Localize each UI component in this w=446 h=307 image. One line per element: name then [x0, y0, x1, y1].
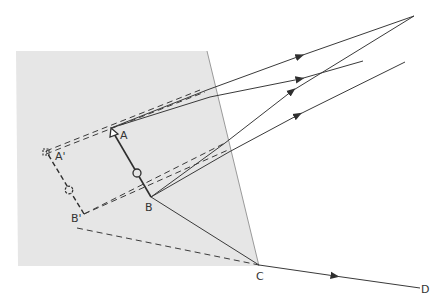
reflected-ray-3 — [225, 91, 292, 143]
ray-diagram: A B A' B' C D — [0, 0, 446, 307]
label-c: C — [256, 270, 264, 283]
image-circle-marker — [65, 186, 73, 194]
label-a: A — [120, 129, 128, 142]
reflected-ray-4-ext — [298, 62, 405, 115]
mirror-panel — [16, 51, 259, 266]
reflected-ray-1-ext — [300, 16, 414, 56]
ray-c-d-ext — [335, 276, 420, 288]
reflected-ray-1 — [207, 56, 300, 90]
label-a-prime: A' — [55, 150, 66, 163]
reflected-ray-2-ext — [300, 61, 363, 79]
reflected-ray-4 — [229, 115, 298, 152]
label-d: D — [421, 283, 429, 296]
label-b-prime: B' — [71, 212, 82, 225]
reflected-ray-3-ext — [292, 16, 414, 91]
object-circle-marker — [133, 169, 141, 177]
reflected-ray-2 — [210, 79, 300, 97]
ray-c-d — [259, 265, 335, 276]
label-b: B — [145, 201, 153, 214]
